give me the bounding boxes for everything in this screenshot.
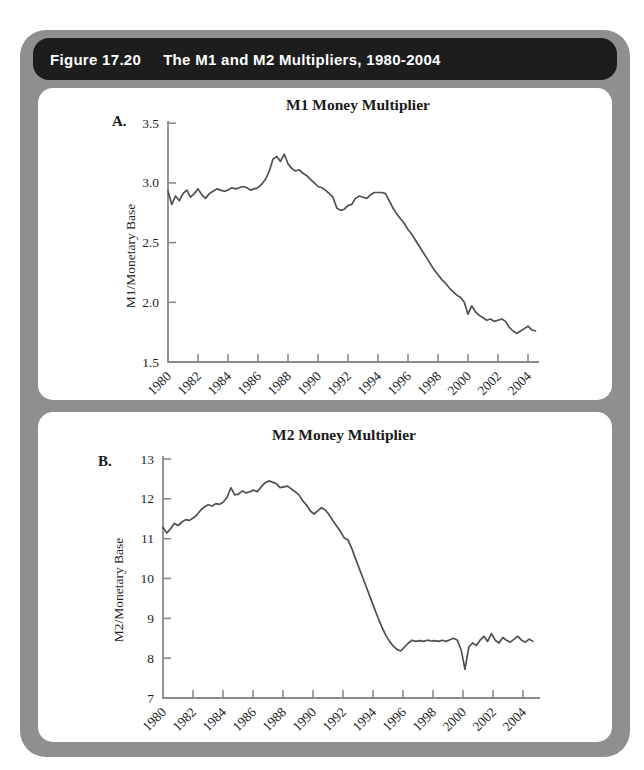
x-tick-label: 1986 (229, 704, 259, 734)
x-tick-label: 2000 (439, 704, 469, 734)
x-tick-label: 2002 (474, 369, 504, 399)
figure-page: Figure 17.20 The M1 and M2 Multipliers, … (0, 0, 644, 770)
panel-m2-chart: M2 Money Multiplier B. M2/Monetary Base … (38, 412, 612, 742)
y-tick-label: 3.0 (142, 175, 159, 190)
y-tick-label: 7 (147, 691, 154, 706)
y-tick-label: 13 (141, 452, 155, 467)
panel-a-label: A. (112, 113, 127, 129)
x-tick-label: 1994 (354, 368, 384, 398)
m2-multiplier-chart: M2 Money Multiplier B. M2/Monetary Base … (38, 412, 612, 742)
x-tick-label: 1996 (384, 368, 414, 398)
x-tick-label: 1988 (259, 704, 289, 734)
x-tick-label: 1990 (289, 704, 319, 734)
x-tick-label: 1982 (174, 369, 204, 399)
x-tick-label: 1984 (199, 704, 229, 734)
y-tick-label: 11 (141, 531, 154, 546)
m1-multiplier-chart: M1 Money Multiplier A. M1/Monetary Base … (38, 88, 612, 400)
x-tick-label: 1994 (349, 704, 379, 734)
x-tick-label: 1980 (144, 368, 174, 398)
figure-header: Figure 17.20 The M1 and M2 Multipliers, … (33, 38, 617, 80)
m1-chart-title: M1 Money Multiplier (286, 96, 430, 113)
figure-title: The M1 and M2 Multipliers, 1980-2004 (163, 51, 441, 68)
m1-y-axis-title: M1/Monetary Base (123, 204, 138, 309)
x-tick-label: 1986 (234, 368, 264, 398)
m2-y-axis-title: M2/Monetary Base (111, 538, 126, 643)
panel-m1-chart: M1 Money Multiplier A. M1/Monetary Base … (38, 88, 612, 400)
m1-plot-area: 3.53.02.52.01.51980198219841986198819901… (142, 116, 539, 399)
y-tick-label: 8 (147, 651, 154, 666)
data-line (168, 154, 536, 333)
y-tick-label: 9 (147, 611, 154, 626)
y-tick-label: 12 (141, 491, 155, 506)
x-tick-label: 1992 (319, 705, 349, 735)
y-tick-label: 10 (141, 571, 155, 586)
x-tick-label: 1998 (414, 368, 444, 398)
axis-lines (168, 121, 539, 362)
x-tick-label: 1998 (409, 704, 439, 734)
x-tick-label: 1990 (294, 368, 324, 398)
m2-chart-title: M2 Money Multiplier (272, 426, 416, 443)
x-tick-label: 2004 (504, 368, 534, 398)
m2-plot-area: 1312111098719801982198419861988199019921… (139, 452, 540, 735)
figure-card: Figure 17.20 The M1 and M2 Multipliers, … (20, 30, 630, 757)
x-tick-label: 1984 (204, 368, 234, 398)
y-tick-label: 1.5 (142, 355, 159, 370)
x-tick-label: 2002 (469, 705, 499, 735)
x-tick-label: 1988 (264, 368, 294, 398)
axis-lines (163, 456, 540, 698)
x-tick-label: 1996 (379, 704, 409, 734)
y-tick-label: 2.5 (142, 235, 159, 250)
x-tick-label: 2004 (499, 704, 529, 734)
panel-b-label: B. (98, 453, 112, 469)
data-line (163, 481, 533, 669)
x-tick-label: 1980 (139, 704, 169, 734)
figure-number: Figure 17.20 (50, 51, 141, 68)
y-tick-label: 3.5 (142, 116, 159, 131)
x-tick-label: 2000 (444, 368, 474, 398)
y-tick-label: 2.0 (142, 295, 159, 310)
x-tick-label: 1982 (169, 705, 199, 735)
x-tick-label: 1992 (324, 369, 354, 399)
